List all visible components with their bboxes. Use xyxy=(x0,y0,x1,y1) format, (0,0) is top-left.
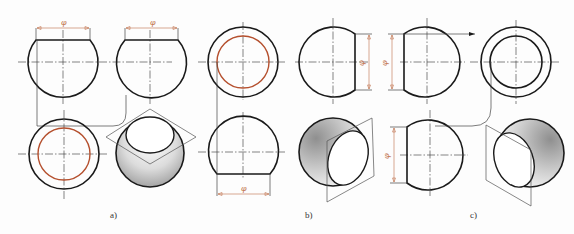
dimension-label: φ xyxy=(380,60,389,66)
panel-a-pictorial xyxy=(106,109,196,187)
dimension-label: φ xyxy=(382,153,391,159)
panel-c: φ φ c) xyxy=(380,18,564,220)
panel-a-side-view: φ xyxy=(117,18,187,104)
panel-b-pictorial xyxy=(299,118,375,202)
panel-b-front-view: φ xyxy=(295,18,372,104)
panel-c-top-view xyxy=(470,20,560,104)
panel-b-caption: b) xyxy=(305,210,313,220)
projection-line xyxy=(37,40,126,126)
panel-a-front-view: φ xyxy=(18,18,172,104)
dimension-label: φ xyxy=(61,18,67,27)
panel-a-right: φ xyxy=(198,22,285,196)
dimension-label: φ xyxy=(357,60,366,66)
panel-c-pictorial xyxy=(486,119,564,206)
panel-a-caption: a) xyxy=(110,210,117,220)
dimension-label: φ xyxy=(241,184,247,193)
panel-a-top-view xyxy=(18,110,108,200)
dimension-label: φ xyxy=(150,18,156,27)
panel-c-front-view: φ xyxy=(380,18,475,104)
panel-b: φ b) xyxy=(295,18,375,220)
panel-c-caption: c) xyxy=(470,210,477,220)
technical-drawing: φ φ a) xyxy=(0,0,574,234)
panel-a: φ φ a) xyxy=(18,18,196,220)
figure-canvas: φ φ a) xyxy=(0,0,574,234)
panel-c-side-view: φ xyxy=(382,110,468,196)
